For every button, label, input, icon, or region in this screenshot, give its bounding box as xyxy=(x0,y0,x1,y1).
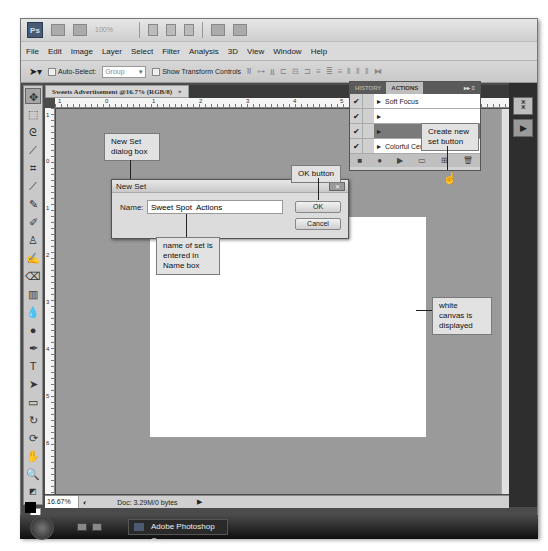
toggle-check-icon[interactable]: ✔ xyxy=(350,94,362,108)
delete-icon[interactable]: 🗑 xyxy=(463,156,473,165)
align-hcenter-icon[interactable]: ⊟ xyxy=(292,67,299,77)
zoom-tool-icon[interactable] xyxy=(166,24,176,36)
new-set-icon[interactable]: ▭ xyxy=(418,156,426,165)
dialog-toggle[interactable] xyxy=(362,124,374,138)
crop-tool-icon[interactable]: ⌗ xyxy=(25,160,41,176)
distribute-top-icon[interactable]: ≡ xyxy=(316,67,321,77)
clone-stamp-tool-icon[interactable]: ♙ xyxy=(25,232,41,248)
eraser-tool-icon[interactable]: ⌫ xyxy=(25,268,41,284)
switch-windows-icon[interactable] xyxy=(92,523,102,531)
action-row[interactable]: ✔ ▸ Soft Focus xyxy=(350,94,480,109)
menu-edit[interactable]: Edit xyxy=(48,47,62,56)
tab-actions[interactable]: ACTIONS xyxy=(386,82,423,94)
callout-arrow xyxy=(447,146,448,170)
align-vcenter-icon[interactable]: ⊶ xyxy=(257,67,265,77)
quick-selection-tool-icon[interactable]: ⟋ xyxy=(25,142,41,158)
hand-tool-icon[interactable]: ✋ xyxy=(25,448,41,464)
distribute-hcenter-icon[interactable]: ⦀ xyxy=(356,67,360,77)
zoom-level-select[interactable]: 100% xyxy=(95,24,131,36)
cancel-button[interactable]: Cancel xyxy=(295,218,341,230)
toggle-check-icon[interactable]: ✔ xyxy=(350,109,362,123)
document-tab[interactable]: Sweets Advertisement @16.7% (RGB/8) × xyxy=(45,85,189,98)
close-tab-icon[interactable]: × xyxy=(178,88,182,96)
vertical-scrollbar[interactable] xyxy=(501,109,509,494)
move-tool-icon[interactable]: ✥ xyxy=(25,88,41,104)
type-tool-icon[interactable]: T xyxy=(25,358,41,374)
show-desktop-icon[interactable] xyxy=(77,523,87,531)
callout-create-new-set: Create new set button xyxy=(421,123,479,151)
view-extras-icon[interactable] xyxy=(73,24,87,36)
brush-tool-icon[interactable]: ✐ xyxy=(25,214,41,230)
screen-mode-icon[interactable] xyxy=(233,24,247,36)
toggle-check-icon[interactable]: ✔ xyxy=(350,139,362,153)
3d-orbit-tool-icon[interactable]: ⟳ xyxy=(25,430,41,446)
history-brush-tool-icon[interactable]: ✍ xyxy=(25,250,41,266)
lasso-tool-icon[interactable]: ᘓ xyxy=(25,124,41,140)
dialog-title: New Set xyxy=(116,182,146,191)
status-menu-arrow-icon[interactable]: ▶ xyxy=(197,498,202,506)
actions-panel-icon[interactable]: ▶ xyxy=(513,119,533,137)
menu-3d[interactable]: 3D xyxy=(228,47,238,56)
dialog-toggle[interactable] xyxy=(362,109,374,123)
tab-history[interactable]: HISTORY xyxy=(350,82,386,94)
history-panel-icon[interactable]: ⁑ xyxy=(513,97,533,115)
play-icon[interactable]: ▶ xyxy=(397,156,403,165)
eyedropper-tool-icon[interactable]: ⟋ xyxy=(25,178,41,194)
action-row[interactable]: ✔ ▸ xyxy=(350,109,480,124)
gradient-tool-icon[interactable]: ▥ xyxy=(25,286,41,302)
rotate-view-icon[interactable] xyxy=(184,24,194,36)
menu-layer[interactable]: Layer xyxy=(102,47,122,56)
menu-filter[interactable]: Filter xyxy=(162,47,180,56)
distribute-bottom-icon[interactable]: ≡ xyxy=(338,67,343,77)
dialog-toggle[interactable] xyxy=(362,94,374,108)
bridge-icon[interactable] xyxy=(51,24,65,36)
auto-select-label: Auto-Select: xyxy=(58,68,96,75)
align-left-icon[interactable]: ⊏ xyxy=(280,67,287,77)
menu-help[interactable]: Help xyxy=(311,47,327,56)
align-right-icon[interactable]: ⊐ xyxy=(304,67,311,77)
panel-menu-icon[interactable]: ▸▸ ≡ xyxy=(459,82,480,94)
hand-tool-icon[interactable] xyxy=(148,24,158,36)
menu-window[interactable]: Window xyxy=(273,47,301,56)
new-set-dialog: New Set ✕ Name: OK Cancel xyxy=(111,179,349,239)
menu-analysis[interactable]: Analysis xyxy=(189,47,219,56)
auto-align-icon[interactable]: ⧓ xyxy=(374,67,382,77)
stop-icon[interactable]: ■ xyxy=(357,156,362,165)
menu-image[interactable]: Image xyxy=(71,47,93,56)
menu-file[interactable]: File xyxy=(26,47,39,56)
ok-button[interactable]: OK xyxy=(295,201,341,213)
3d-rotate-tool-icon[interactable]: ↻ xyxy=(25,412,41,428)
ruler-label: 1 xyxy=(58,98,61,104)
blur-tool-icon[interactable]: 💧 xyxy=(25,304,41,320)
shape-tool-icon[interactable]: ▭ xyxy=(25,394,41,410)
arrange-documents-icon[interactable] xyxy=(211,24,225,36)
name-input[interactable] xyxy=(147,200,283,214)
distribute-right-icon[interactable]: ⦀ xyxy=(365,67,369,77)
expand-triangle-icon[interactable]: ▸ xyxy=(377,112,381,121)
default-colors-icon[interactable]: ◩ ⇆ xyxy=(25,484,41,500)
menu-select[interactable]: Select xyxy=(131,47,153,56)
path-selection-tool-icon[interactable]: ➤ xyxy=(25,376,41,392)
healing-brush-tool-icon[interactable]: ✎ xyxy=(25,196,41,212)
align-top-icon[interactable]: ⫪ xyxy=(247,67,252,77)
record-icon[interactable]: ● xyxy=(377,156,382,165)
dodge-tool-icon[interactable]: ● xyxy=(25,322,41,338)
auto-select-checkbox[interactable]: Auto-Select: xyxy=(48,68,96,76)
zoom-status-field[interactable]: 16.67% xyxy=(45,496,79,508)
auto-select-dropdown[interactable]: Group xyxy=(102,66,146,78)
toggle-check-icon[interactable]: ✔ xyxy=(350,124,362,138)
align-bottom-icon[interactable]: ⫫ xyxy=(270,67,275,77)
start-button[interactable] xyxy=(30,516,54,540)
zoom-tool-icon[interactable]: 🔍 xyxy=(25,466,41,482)
dialog-toggle[interactable] xyxy=(362,139,374,153)
pen-tool-icon[interactable]: ✒ xyxy=(25,340,41,356)
distribute-vcenter-icon[interactable]: ≣ xyxy=(326,67,333,77)
menu-view[interactable]: View xyxy=(247,47,264,56)
show-transform-checkbox[interactable]: Show Transform Controls xyxy=(152,68,241,76)
move-tool-preset-icon[interactable]: ➤▾ xyxy=(29,66,42,77)
close-icon[interactable]: ✕ xyxy=(329,182,345,191)
marquee-tool-icon[interactable]: ⬚ xyxy=(25,106,41,122)
taskbar-photoshop-button[interactable]: Adobe Photoshop C... xyxy=(128,519,228,535)
expand-triangle-icon[interactable]: ▸ xyxy=(377,127,381,136)
distribute-left-icon[interactable]: ⦀ xyxy=(347,67,351,77)
